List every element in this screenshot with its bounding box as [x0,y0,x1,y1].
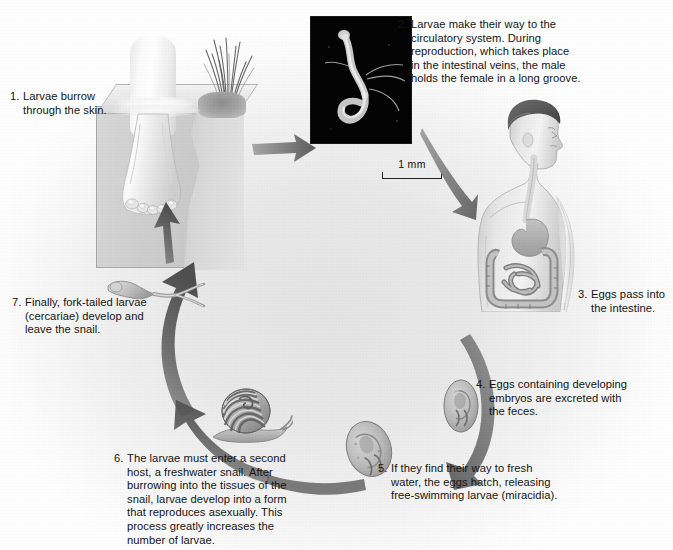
caption-step-4-text: Eggs containing developing embryos are e… [476,378,666,419]
caption-step-7-number: 7. [12,296,21,310]
micrograph-inset [310,16,412,144]
caption-step-1-number: 1. [10,90,19,104]
caption-step-2-text: Larvae make their way to the circulatory… [398,18,664,86]
caption-step-2: 2. Larvae make their way to the circulat… [398,18,664,86]
caption-step-6-text: The larvae must enter a second host, a f… [114,452,324,547]
caption-step-3-text: Eggs pass into the intestine. [578,288,672,315]
caption-step-3-number: 3. [578,288,587,302]
figure-schistosome-life-cycle: 1. Larvae burrow through the skin. [0,0,673,550]
caption-step-5-text: If they find their way to fresh water, t… [378,462,598,503]
freshwater-snail-illustration [205,385,293,447]
caption-step-5: 5. If they find their way to fresh water… [378,462,598,503]
caption-step-4-number: 4. [476,378,485,392]
caption-step-6-number: 6. [114,452,123,466]
larvae-entry-arrow [150,200,194,264]
caption-step-1: 1. Larvae burrow through the skin. [10,90,120,117]
schistosome-pair-micrograph-image [311,17,412,144]
caption-step-6: 6. The larvae must enter a second host, … [114,452,324,547]
caption-step-2-number: 2. [398,18,407,32]
caption-step-4: 4. Eggs containing developing embryos ar… [476,378,666,419]
caption-step-7-text: Finally, fork-tailed larvae (cercariae) … [12,296,162,337]
caption-step-7: 7. Finally, fork-tailed larvae (cercaria… [12,296,162,337]
skin-to-blood-arrow [252,132,318,166]
into-body-arrow [420,128,480,222]
caption-step-5-number: 5. [378,462,387,476]
caption-step-1-text: Larvae burrow through the skin. [10,90,120,117]
caption-step-3: 3. Eggs pass into the intestine. [578,288,672,315]
bank-soil [198,92,246,118]
